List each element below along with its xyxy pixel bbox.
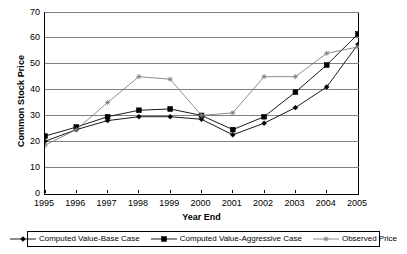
data-point-marker (262, 74, 267, 79)
data-point-marker (45, 134, 47, 139)
data-point-marker (136, 74, 141, 79)
y-tick-label: 50 (6, 59, 40, 68)
data-point-marker (293, 74, 298, 79)
y-tick-label: 70 (6, 8, 40, 17)
data-point-marker (168, 107, 173, 112)
data-point-marker (105, 114, 110, 119)
data-point-marker (324, 51, 329, 56)
data-point-marker (323, 236, 328, 241)
chart-legend: Computed Value-Base CaseComputed Value-A… (27, 231, 380, 247)
legend-item[interactable]: Computed Value-Base Case (10, 234, 140, 244)
data-point-marker (199, 113, 204, 118)
x-tick-label: 2005 (337, 199, 377, 208)
data-point-marker (262, 121, 267, 126)
legend-star-icon (313, 234, 339, 244)
data-point-marker (293, 105, 298, 110)
series-line (45, 47, 358, 145)
legend-item-label: Computed Value-Aggressive Case (180, 235, 302, 243)
y-tick-label: 30 (6, 111, 40, 120)
data-point-marker (161, 237, 166, 242)
stock-price-line-chart: Common Stock Price Year End 010203040506… (0, 0, 407, 254)
y-tick-label: 60 (6, 33, 40, 42)
data-point-marker (262, 114, 267, 119)
legend-item-label: Observed Price (342, 235, 397, 243)
data-point-marker (45, 143, 48, 148)
legend-item[interactable]: Computed Value-Aggressive Case (151, 234, 302, 244)
y-tick-label: 10 (6, 163, 40, 172)
data-point-marker (230, 132, 235, 137)
data-point-marker (324, 63, 329, 68)
y-tick-label: 40 (6, 85, 40, 94)
y-axis-title: Common Stock Price (16, 31, 26, 171)
x-axis-title: Year End (44, 212, 359, 222)
data-point-marker (293, 90, 298, 95)
data-point-marker (356, 32, 359, 37)
data-point-marker (21, 237, 26, 242)
legend-diamond-icon (10, 234, 36, 244)
data-point-marker (230, 110, 235, 115)
data-point-marker (230, 127, 235, 132)
y-tick-label: 20 (6, 137, 40, 146)
y-tick-label: 0 (6, 189, 40, 198)
plot-canvas (45, 12, 359, 194)
series-line (45, 44, 358, 141)
legend-item[interactable]: Observed Price (313, 234, 397, 244)
legend-item-label: Computed Value-Base Case (39, 235, 140, 243)
plot-area (44, 12, 359, 195)
data-point-marker (137, 108, 142, 113)
legend-square-icon (151, 234, 177, 244)
data-point-marker (105, 100, 110, 105)
